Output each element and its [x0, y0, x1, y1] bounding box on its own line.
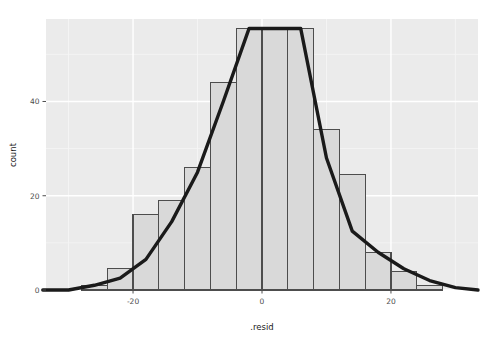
histogram-bar: [159, 200, 185, 290]
y-tick-label: 20: [30, 192, 40, 201]
histogram-bar: [133, 215, 159, 290]
histogram-bar: [262, 28, 288, 290]
x-tick-label: 0: [260, 297, 265, 306]
chart-container: -20020 02040 .resid count: [0, 0, 494, 350]
histogram-bar: [210, 83, 236, 290]
x-axis-title: .resid: [250, 322, 273, 332]
histogram-bar: [417, 285, 443, 290]
residual-histogram-plot: -20020 02040 .resid count: [0, 0, 494, 350]
y-axis-title: count: [8, 142, 18, 167]
x-tick-label: -20: [127, 297, 139, 306]
y-tick-label: 40: [30, 97, 40, 106]
x-tick-label: 20: [386, 297, 396, 306]
y-tick-label: 0: [35, 286, 40, 295]
histogram-bar: [236, 28, 262, 290]
